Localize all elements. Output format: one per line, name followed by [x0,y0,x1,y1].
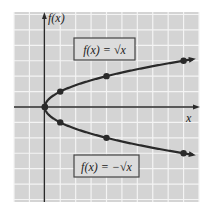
data-point [57,88,63,94]
bottom-equation-label: f(x) = −√x [81,160,132,174]
bottom-equation-box: f(x) = −√x [74,155,139,177]
data-point [180,58,186,64]
data-point [42,104,48,110]
top-equation-box: f(x) = √x [74,38,135,60]
data-point [103,135,109,141]
data-point [103,73,109,79]
data-point [180,150,186,156]
x-axis-label: x [185,111,192,125]
y-axis-label: f(x) [48,11,65,25]
data-point [57,119,63,125]
top-equation-label: f(x) = √x [83,43,126,57]
chart: f(x) x f(x) = √x f(x) = −√x [0,0,214,215]
